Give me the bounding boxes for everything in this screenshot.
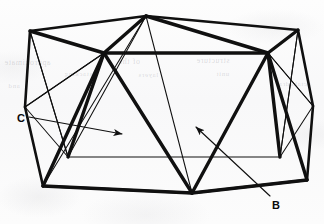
leader-line-b [196, 127, 270, 196]
label-c: C [17, 113, 25, 124]
label-b: B [272, 200, 280, 211]
polyhedron-drawing [0, 0, 324, 224]
polyhedron-edges [25, 16, 313, 193]
figure-root: approximateof thestructurestackinglayers… [0, 0, 324, 224]
